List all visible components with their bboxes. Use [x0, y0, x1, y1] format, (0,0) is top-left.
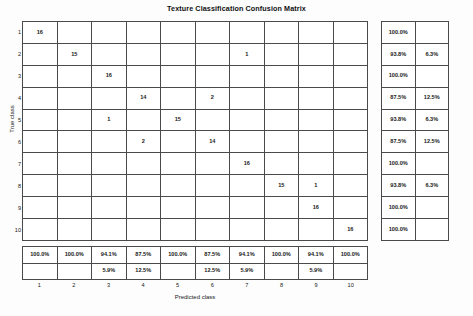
- column-correct-percent: 94.1%: [299, 247, 334, 264]
- x-tick-label: 8: [264, 282, 299, 293]
- matrix-cell: [92, 175, 127, 197]
- matrix-cell: [161, 175, 196, 197]
- matrix-cell: [57, 131, 92, 153]
- row-error-percent: [415, 65, 449, 87]
- matrix-table: 1615116142115214161511616: [22, 21, 368, 241]
- matrix-cell: [92, 219, 127, 241]
- matrix-cell: [57, 153, 92, 175]
- x-tick-label: 9: [299, 282, 334, 293]
- table-row: 93.8%6.3%: [382, 109, 449, 131]
- y-tick-label: 6: [10, 131, 21, 153]
- matrix-cell: [333, 87, 368, 109]
- matrix-cell: [333, 22, 368, 44]
- table-row: 100.0%: [382, 219, 449, 241]
- row-correct-percent: 87.5%: [382, 87, 416, 109]
- matrix-cell: [230, 175, 265, 197]
- row-error-percent: [415, 219, 449, 241]
- matrix-cell: [126, 197, 161, 219]
- x-tick-labels: 12345678910: [22, 282, 368, 293]
- row-correct-percent: 93.8%: [382, 109, 416, 131]
- matrix-cell: 16: [230, 153, 265, 175]
- matrix-cell: 15: [161, 109, 196, 131]
- matrix-cell: [264, 65, 299, 87]
- row-error-percent: 12.5%: [415, 131, 449, 153]
- x-tick-label: 6: [195, 282, 230, 293]
- column-error-percent: 5.9%: [230, 263, 265, 280]
- matrix-cell: [195, 175, 230, 197]
- matrix-cell: [264, 109, 299, 131]
- row-correct-percent: 93.8%: [382, 175, 416, 197]
- column-error-percent: [161, 263, 196, 280]
- y-tick-label: 10: [10, 219, 21, 241]
- table-row: 214: [23, 131, 368, 153]
- matrix-cell: [195, 197, 230, 219]
- y-tick-label: 7: [10, 153, 21, 175]
- table-row: 16: [23, 197, 368, 219]
- matrix-cell: [161, 22, 196, 44]
- matrix-cell: 16: [333, 219, 368, 241]
- column-error-percent: 12.5%: [195, 263, 230, 280]
- matrix-cell: [161, 43, 196, 65]
- y-tick-label: 3: [10, 65, 21, 87]
- matrix-cell: [126, 219, 161, 241]
- matrix-cell: [57, 22, 92, 44]
- matrix-cell: [161, 219, 196, 241]
- table-row: 93.8%6.3%: [382, 175, 449, 197]
- y-tick-label: 4: [10, 87, 21, 109]
- matrix-cell: [23, 153, 58, 175]
- matrix-cell: 2: [126, 131, 161, 153]
- table-row: 100.0%: [382, 197, 449, 219]
- matrix-cell: [195, 43, 230, 65]
- matrix-cell: [161, 197, 196, 219]
- matrix-cell: [230, 131, 265, 153]
- matrix-cell: 15: [57, 43, 92, 65]
- matrix-cell: [57, 65, 92, 87]
- matrix-cell: [264, 87, 299, 109]
- column-error-percent: 5.9%: [299, 263, 334, 280]
- matrix-cell: [23, 219, 58, 241]
- matrix-cell: [230, 109, 265, 131]
- matrix-cell: [264, 43, 299, 65]
- matrix-cell: [299, 219, 334, 241]
- row-summary-table: 100.0%93.8%6.3%100.0%87.5%12.5%93.8%6.3%…: [381, 21, 449, 241]
- matrix-cell: [230, 22, 265, 44]
- column-correct-percent: 94.1%: [230, 247, 265, 264]
- column-correct-percent: 100.0%: [23, 247, 58, 264]
- matrix-cell: [92, 131, 127, 153]
- matrix-cell: 2: [195, 87, 230, 109]
- y-tick-label: 8: [10, 175, 21, 197]
- matrix-cell: [195, 109, 230, 131]
- table-row: 100.0%100.0%94.1%87.5%100.0%87.5%94.1%10…: [23, 247, 368, 264]
- table-row: 5.9%12.5%12.5%5.9%5.9%: [23, 263, 368, 280]
- y-tick-label: 1: [10, 21, 21, 43]
- matrix-cell: [126, 22, 161, 44]
- table-row: 87.5%12.5%: [382, 87, 449, 109]
- matrix-cell: [57, 197, 92, 219]
- matrix-cell: [23, 175, 58, 197]
- matrix-cell: [195, 22, 230, 44]
- column-summary-table: 100.0%100.0%94.1%87.5%100.0%87.5%94.1%10…: [22, 246, 368, 280]
- matrix-cell: [57, 109, 92, 131]
- column-correct-percent: 100.0%: [57, 247, 92, 264]
- column-correct-percent: 100.0%: [264, 247, 299, 264]
- matrix-cell: [299, 153, 334, 175]
- matrix-cell: 15: [264, 175, 299, 197]
- column-error-percent: [264, 263, 299, 280]
- matrix-cell: [126, 153, 161, 175]
- matrix-cell: [264, 131, 299, 153]
- row-error-percent: 6.3%: [415, 43, 449, 65]
- confusion-matrix-figure: Texture Classification Confusion Matrix …: [0, 0, 473, 316]
- matrix-cell: 14: [195, 131, 230, 153]
- matrix-cell: [57, 219, 92, 241]
- column-summary-grid: 100.0%100.0%94.1%87.5%100.0%87.5%94.1%10…: [22, 246, 368, 280]
- matrix-cell: 14: [126, 87, 161, 109]
- matrix-cell: 1: [230, 43, 265, 65]
- column-correct-percent: 100.0%: [333, 247, 368, 264]
- matrix-cell: [333, 43, 368, 65]
- matrix-cell: [23, 131, 58, 153]
- matrix-cell: [264, 22, 299, 44]
- column-correct-percent: 87.5%: [195, 247, 230, 264]
- x-axis-label: Predicted class: [22, 294, 368, 300]
- row-error-percent: [415, 197, 449, 219]
- matrix-cell: [299, 109, 334, 131]
